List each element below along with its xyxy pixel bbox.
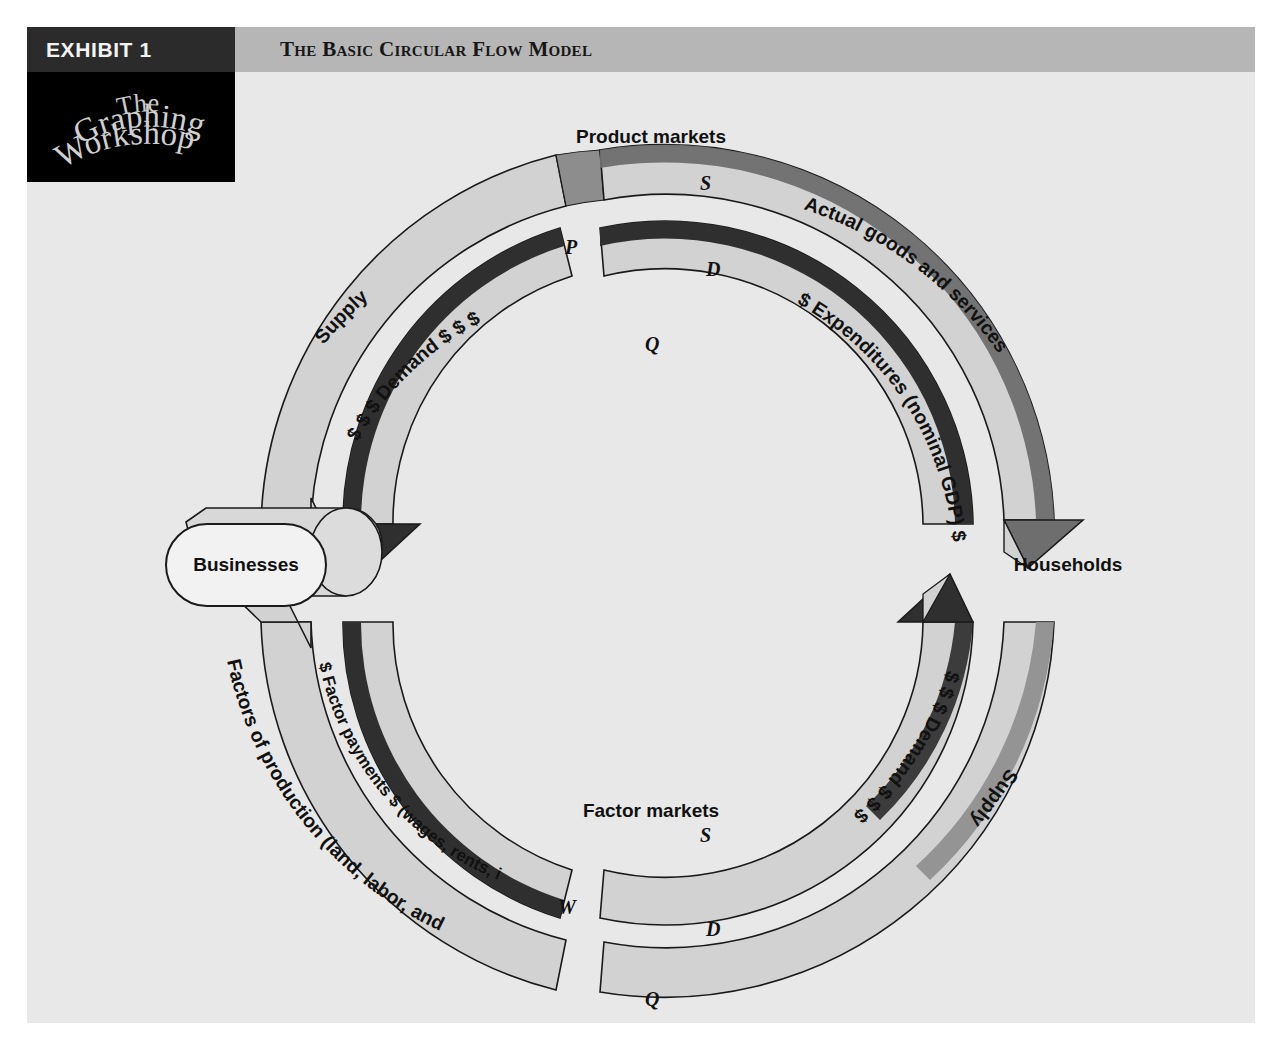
exhibit-page: EXHIBIT 1 The Basic Circular Flow Model … — [0, 0, 1282, 1043]
market-title-product: Product markets — [556, 126, 746, 148]
axis-label-quantity-product: Q — [645, 333, 659, 356]
node-label-businesses: Businesses — [166, 554, 326, 576]
node-label-households: Households — [988, 554, 1148, 576]
axis-label-wage: W — [558, 896, 576, 919]
curve-label-supply-product: S — [700, 172, 711, 195]
curve-label-supply-factor: S — [700, 824, 711, 847]
axis-label-quantity-factor: Q — [645, 988, 659, 1011]
curve-label-demand-factor: D — [706, 918, 720, 941]
flow-label-bottom-inner-left: $ Factor payments $ (wages, rents, inter… — [0, 0, 504, 884]
circular-flow-diagram: Supply Actual goods and services $ $ $ D… — [0, 0, 1282, 1043]
market-title-factor: Factor markets — [556, 800, 746, 822]
axis-label-price: P — [565, 236, 577, 259]
curve-label-demand-product: D — [706, 258, 720, 281]
